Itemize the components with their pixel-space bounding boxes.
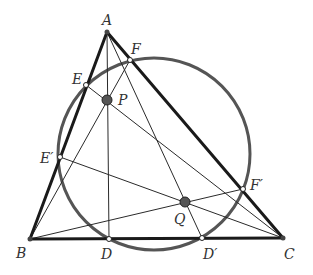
point-Q [180, 197, 190, 207]
side-CA [107, 32, 283, 238]
side-AB [30, 32, 107, 239]
label-B: B [15, 245, 26, 261]
label-P: P [117, 92, 128, 108]
label-F-prime: F′ [249, 177, 264, 193]
vertex-B [28, 237, 33, 242]
geometry-diagram: A B C D D′ E E′ F F′ P Q [0, 0, 313, 275]
label-D-prime: D′ [202, 246, 218, 262]
vertex-A [105, 30, 110, 35]
point-D-prime [200, 236, 205, 241]
label-E: E [71, 71, 82, 87]
label-Q: Q [174, 211, 186, 227]
side-BC [30, 238, 283, 239]
point-E [84, 83, 89, 88]
label-C: C [284, 246, 295, 262]
label-A: A [100, 12, 112, 28]
vertex-C [281, 236, 286, 241]
label-E-prime: E′ [39, 150, 54, 166]
point-D [107, 237, 112, 242]
point-P [102, 95, 112, 105]
diagram-canvas: A B C D D′ E E′ F F′ P Q [0, 0, 313, 275]
point-E-prime [58, 155, 63, 160]
label-F: F [130, 41, 142, 57]
cevian-AD [107, 32, 109, 239]
point-F [128, 58, 133, 63]
label-D: D [100, 246, 112, 262]
point-F-prime [241, 187, 246, 192]
